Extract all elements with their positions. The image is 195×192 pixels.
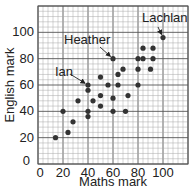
data-point — [98, 103, 103, 108]
x-axis-label: Maths mark — [79, 174, 147, 189]
data-point — [115, 82, 120, 87]
data-point — [70, 119, 75, 124]
annotation-arrow — [100, 47, 110, 56]
data-point — [105, 82, 110, 87]
x-tick-label: 100 — [152, 165, 174, 180]
data-point — [135, 56, 140, 61]
data-point — [123, 109, 128, 114]
data-point — [98, 93, 103, 98]
data-point — [150, 46, 155, 51]
data-point — [140, 56, 145, 61]
x-tick-label: 0 — [36, 165, 43, 180]
annotation-arrow — [158, 27, 162, 34]
data-point — [125, 93, 130, 98]
data-point-heather — [110, 56, 115, 61]
data-point — [110, 96, 115, 101]
data-points — [53, 35, 166, 140]
data-point — [120, 67, 125, 72]
annotation-heather: Heather — [64, 32, 111, 47]
y-tick-label: 60 — [20, 77, 34, 92]
data-point — [135, 67, 140, 72]
y-axis-label: English mark — [2, 47, 17, 123]
data-point — [75, 98, 80, 103]
y-tick-label: 40 — [20, 103, 34, 118]
annotations: LachlanHeatherIan — [55, 10, 188, 83]
data-point — [60, 109, 65, 114]
y-tick-label: 0 — [23, 153, 30, 168]
data-point — [85, 114, 90, 119]
data-point — [115, 72, 120, 77]
data-point — [150, 56, 155, 61]
y-tick-label: 80 — [20, 51, 34, 66]
data-point — [85, 109, 90, 114]
data-point — [140, 46, 145, 51]
data-point — [53, 135, 58, 140]
data-point-lachlan — [160, 35, 165, 40]
data-point — [90, 98, 95, 103]
data-point — [65, 130, 70, 135]
y-tick-label: 100 — [12, 24, 34, 39]
scatter-chart: 020406080100020406080100 LachlanHeatherI… — [0, 0, 195, 192]
data-point — [110, 109, 115, 114]
y-tick-label: 20 — [20, 130, 34, 145]
annotation-ian: Ian — [55, 64, 73, 79]
data-point-ian — [85, 82, 90, 87]
data-point — [85, 88, 90, 93]
data-point — [148, 67, 153, 72]
data-point — [98, 75, 103, 80]
plot-grid — [38, 6, 188, 164]
x-tick-label: 20 — [56, 165, 70, 180]
annotation-lachlan: Lachlan — [142, 10, 188, 25]
data-point — [135, 82, 140, 87]
